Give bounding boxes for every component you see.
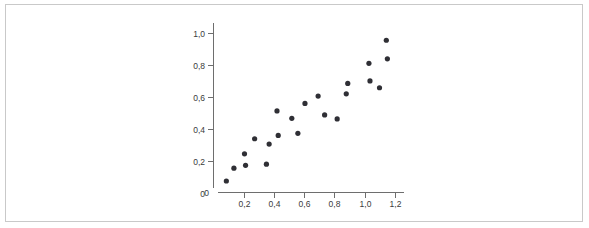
x-tick-label-2: 0,6 [299,199,311,209]
data-point [274,108,279,113]
y-axis-group: 00,20,40,60,81,0 [193,23,213,199]
x-axis-ticks [245,193,396,199]
data-point [367,78,372,83]
y-tick-label-1: 0,2 [193,157,205,167]
scatter-plot-svg: 00,20,40,60,81,0 0,20,40,60,81,01,20 [0,0,589,228]
y-axis-ticks [208,34,214,162]
y-tick-label-2: 0,4 [193,125,205,135]
data-points-group [224,38,390,184]
data-point [302,101,307,106]
data-point [377,85,382,90]
data-point [264,162,269,167]
data-point [345,81,350,86]
x-tick-label-3: 0,8 [329,199,341,209]
data-point [242,151,247,156]
x-tick-label-0: 0,2 [239,199,251,209]
data-point [385,56,390,61]
x-tick-label-1: 0,4 [269,199,281,209]
data-point [335,116,340,121]
x-axis-group: 0,20,40,60,81,01,20 [204,188,404,209]
data-point [344,91,349,96]
data-point [231,166,236,171]
y-tick-label-3: 0,6 [193,93,205,103]
y-tick-label-4: 0,8 [193,61,205,71]
data-point [295,131,300,136]
data-point [316,93,321,98]
x-tick-label-4: 1,0 [360,199,372,209]
data-point [267,141,272,146]
screenshot-root: 00,20,40,60,81,0 0,20,40,60,81,01,20 [0,0,589,228]
data-point [322,112,327,117]
x-tick-label-5: 1,2 [390,199,402,209]
origin-label: 0 [204,188,209,198]
x-axis-tick-labels: 0,20,40,60,81,01,20 [204,188,401,209]
y-tick-label-5: 1,0 [193,29,205,39]
data-point [252,136,257,141]
data-point [276,133,281,138]
scatter-chart: 00,20,40,60,81,0 0,20,40,60,81,01,20 [0,0,589,228]
data-point [224,178,229,183]
data-point [243,163,248,168]
data-point [289,116,294,121]
y-axis-tick-labels: 00,20,40,60,81,0 [193,29,205,199]
data-point [384,38,389,43]
data-point [366,61,371,66]
